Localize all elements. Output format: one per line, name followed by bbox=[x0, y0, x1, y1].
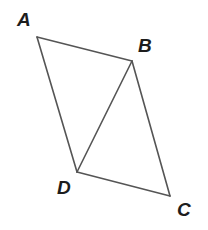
figure-background bbox=[0, 0, 208, 230]
figure-canvas bbox=[0, 0, 208, 230]
vertex-label-c: C bbox=[177, 200, 191, 219]
vertex-label-a: A bbox=[17, 10, 31, 29]
geometry-figure: A B C D bbox=[0, 0, 208, 230]
vertex-label-d: D bbox=[57, 178, 71, 197]
vertex-label-b: B bbox=[138, 36, 152, 55]
